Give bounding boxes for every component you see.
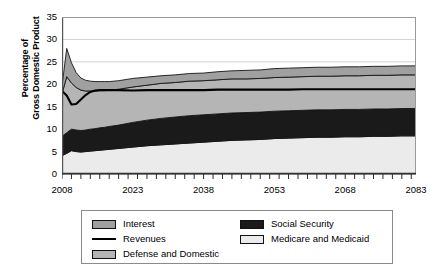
y-tick-30: 30 <box>35 34 57 44</box>
y-tick-25: 25 <box>35 57 57 67</box>
legend-item-revenues[interactable]: Revenues <box>92 232 166 246</box>
y-tick-15: 15 <box>35 102 57 112</box>
x-tick-2053: 2053 <box>254 185 294 195</box>
chart-container: Percentage of Gross Domestic Product 051… <box>0 0 438 276</box>
y-tick-10: 10 <box>35 124 57 134</box>
x-minor-ticks <box>62 174 411 179</box>
legend-label: Defense and Domestic <box>123 249 219 259</box>
legend-item-interest[interactable]: Interest <box>92 217 155 231</box>
legend-label: Medicare and Medicaid <box>271 234 369 244</box>
area-chart-svg <box>62 17 416 180</box>
x-tick-2038: 2038 <box>184 185 224 195</box>
x-tick-2068: 2068 <box>325 185 365 195</box>
legend-swatch-box <box>92 220 116 229</box>
legend-item-medicare-and-medicaid[interactable]: Medicare and Medicaid <box>240 232 369 246</box>
x-tick-2008: 2008 <box>42 185 82 195</box>
legend-label: Revenues <box>123 234 166 244</box>
legend-swatch-box <box>240 220 264 229</box>
legend-label: Interest <box>123 219 155 229</box>
plot-area <box>62 17 416 174</box>
chart-legend: InterestRevenuesDefense and DomesticSoci… <box>81 210 393 264</box>
y-axis-title-line1: Percentage of <box>20 0 31 148</box>
y-tick-35: 35 <box>35 12 57 22</box>
legend-swatch-box <box>92 250 116 259</box>
x-tick-2083: 2083 <box>396 185 436 195</box>
stacked-areas <box>62 48 416 174</box>
y-tick-0: 0 <box>35 169 57 179</box>
legend-item-social-security[interactable]: Social Security <box>240 217 334 231</box>
legend-item-defense-and-domestic[interactable]: Defense and Domestic <box>92 247 219 261</box>
legend-swatch-line <box>92 238 116 240</box>
x-tick-2023: 2023 <box>113 185 153 195</box>
legend-swatch-box <box>240 235 264 244</box>
y-tick-20: 20 <box>35 79 57 89</box>
legend-label: Social Security <box>271 219 334 229</box>
y-tick-5: 5 <box>35 147 57 157</box>
